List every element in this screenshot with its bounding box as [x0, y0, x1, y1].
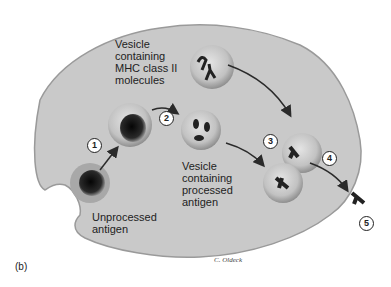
diagram-canvas [0, 0, 391, 287]
artist-signature: C. Oldeck [214, 256, 242, 264]
mhc-vesicle [190, 45, 234, 89]
step-5-marker: 5 [359, 216, 374, 231]
peptide-fragment [193, 119, 199, 129]
unprocessed-antigen [79, 170, 105, 196]
label-line: Vesicle [115, 38, 177, 50]
label-line: antigen [182, 196, 233, 208]
label-line: Vesicle [182, 160, 233, 172]
label-line: containing [115, 50, 177, 62]
step-2-marker: 2 [159, 111, 174, 126]
endosome-antigen [120, 114, 146, 142]
label-line: MHC class II [115, 62, 177, 74]
label-mhc-vesicle: Vesicle containing MHC class II molecule… [115, 38, 177, 86]
peptide-fragment [194, 135, 204, 141]
surface-mhc-complex [352, 193, 364, 204]
step-3-marker: 3 [263, 134, 278, 149]
peptide-fragment [204, 122, 210, 132]
label-line: Unprocessed [92, 211, 157, 223]
label-line: antigen [92, 223, 157, 235]
processed-vesicle [181, 110, 221, 150]
label-unprocessed: Unprocessed antigen [92, 211, 157, 235]
step-1-marker: 1 [87, 138, 102, 153]
label-processed-vesicle: Vesicle containing processed antigen [182, 160, 233, 208]
step-4-marker: 4 [322, 151, 337, 166]
label-line: processed [182, 184, 233, 196]
label-line: molecules [115, 74, 177, 86]
label-line: containing [182, 172, 233, 184]
panel-label: (b) [15, 261, 27, 272]
